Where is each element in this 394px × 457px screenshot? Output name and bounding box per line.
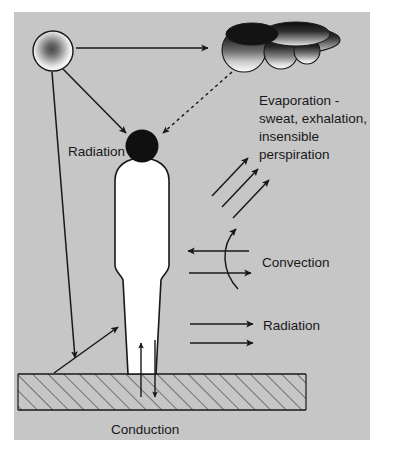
diagram-canvas: Radiation Evaporation - sweat, exhalatio… xyxy=(0,0,394,457)
label-evaporation-line1: Evaporation - xyxy=(259,93,339,108)
head-circle xyxy=(126,130,159,163)
label-conduction: Conduction xyxy=(111,422,179,437)
thermal-exchange-diagram: Radiation Evaporation - sweat, exhalatio… xyxy=(0,0,394,457)
label-evaporation-line3: insensible xyxy=(259,129,319,144)
label-convection: Convection xyxy=(262,255,330,270)
label-evaporation-line2: sweat, exhalation, xyxy=(259,111,367,126)
hatched-ground-layer xyxy=(18,374,306,410)
sun-icon xyxy=(33,31,73,71)
label-radiation-sun: Radiation xyxy=(68,144,125,159)
label-evaporation-line4: perspiration xyxy=(259,147,330,162)
label-radiation-body: Radiation xyxy=(263,318,320,333)
